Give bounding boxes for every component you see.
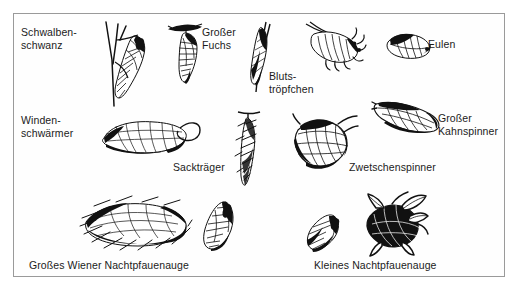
label-blutstroepfchen: Bluts- tröpfchen [269, 70, 314, 95]
label-eulen: Eulen [428, 38, 455, 51]
figure-hawkmoth-pupa-with-proboscis [96, 110, 206, 162]
illustration-plate: Schwalben- schwanz Großer Fuchs Bluts- t… [13, 13, 505, 277]
label-grosser-kahnspinner: Großer Kahnspinner [438, 112, 498, 137]
label-windenschwaermer: Winden- schwärmer [21, 114, 73, 139]
figure-bagworm-case [232, 110, 264, 190]
figure-large-silk-cocoon-nest [76, 196, 192, 252]
figure-caterpillar-pupating [304, 20, 370, 72]
label-grosser-fuchs: Großer Fuchs [202, 26, 236, 51]
figure-large-emperor-pupa [200, 198, 240, 254]
label-kleines-nachtpfauenauge: Kleines Nachtpfauenauge [314, 259, 437, 272]
label-zwetschenspinner: Zwetschenspinner [349, 161, 436, 174]
label-schwalbenschwanz: Schwalben- schwanz [21, 26, 77, 51]
figure-swallowtail-chrysalis-on-twig [92, 20, 162, 108]
label-secktraeger: Sackträger [173, 161, 225, 174]
figure-small-emperor-pupa [304, 212, 344, 254]
figure-boat-shaped-cocoon [372, 96, 444, 138]
figure-noctuid-pupa [382, 28, 434, 64]
label-grosses-wiener-nachtpfauenauge: Großes Wiener Nachtpfauenauge [29, 259, 189, 272]
figure-small-emperor-cocoon [362, 194, 428, 256]
